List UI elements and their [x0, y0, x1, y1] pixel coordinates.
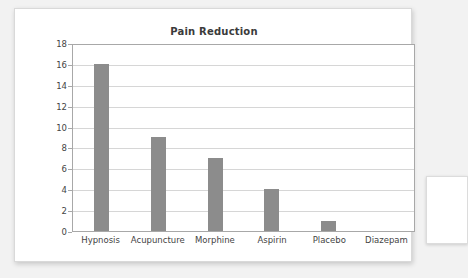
x-tick-label: Placebo: [301, 235, 358, 245]
plot-area: [72, 44, 415, 232]
x-tick-label: Hypnosis: [72, 235, 129, 245]
y-tick-label: 14: [56, 81, 67, 91]
y-tick-label: 10: [56, 123, 67, 133]
x-tick-label: Morphine: [186, 235, 243, 245]
y-tick-label: 6: [62, 164, 67, 174]
y-tick-label: 8: [62, 143, 67, 153]
chart-card: Pain Reduction 024681012141618 HypnosisA…: [14, 8, 412, 262]
adjacent-card-partial: [426, 176, 468, 244]
y-tick-label: 12: [56, 102, 67, 112]
x-tick-label: Acupuncture: [129, 235, 186, 245]
y-tick-label: 0: [62, 227, 67, 237]
bar-slot: [357, 45, 414, 231]
x-tick-label: Aspirin: [244, 235, 301, 245]
bar-slot: [73, 45, 130, 231]
chart-title: Pain Reduction: [15, 26, 413, 37]
y-tick-label: 16: [56, 60, 67, 70]
y-tick-mark: [68, 232, 72, 233]
bar-slot: [130, 45, 187, 231]
bar: [264, 189, 279, 231]
y-axis: 024681012141618: [58, 44, 72, 232]
y-tick-label: 2: [62, 206, 67, 216]
bar-slot: [300, 45, 357, 231]
chart-plot-wrapper: 024681012141618 HypnosisAcupunctureMorph…: [58, 44, 403, 254]
bar: [208, 158, 223, 231]
bar-series: [73, 45, 414, 231]
bar-slot: [187, 45, 244, 231]
x-axis: HypnosisAcupunctureMorphineAspirinPlaceb…: [72, 235, 415, 245]
bar: [321, 221, 336, 231]
x-tick-label: Diazepam: [358, 235, 415, 245]
y-tick-label: 18: [56, 39, 67, 49]
y-tick-label: 4: [62, 185, 67, 195]
bar: [94, 64, 109, 231]
bar: [151, 137, 166, 231]
bar-slot: [243, 45, 300, 231]
